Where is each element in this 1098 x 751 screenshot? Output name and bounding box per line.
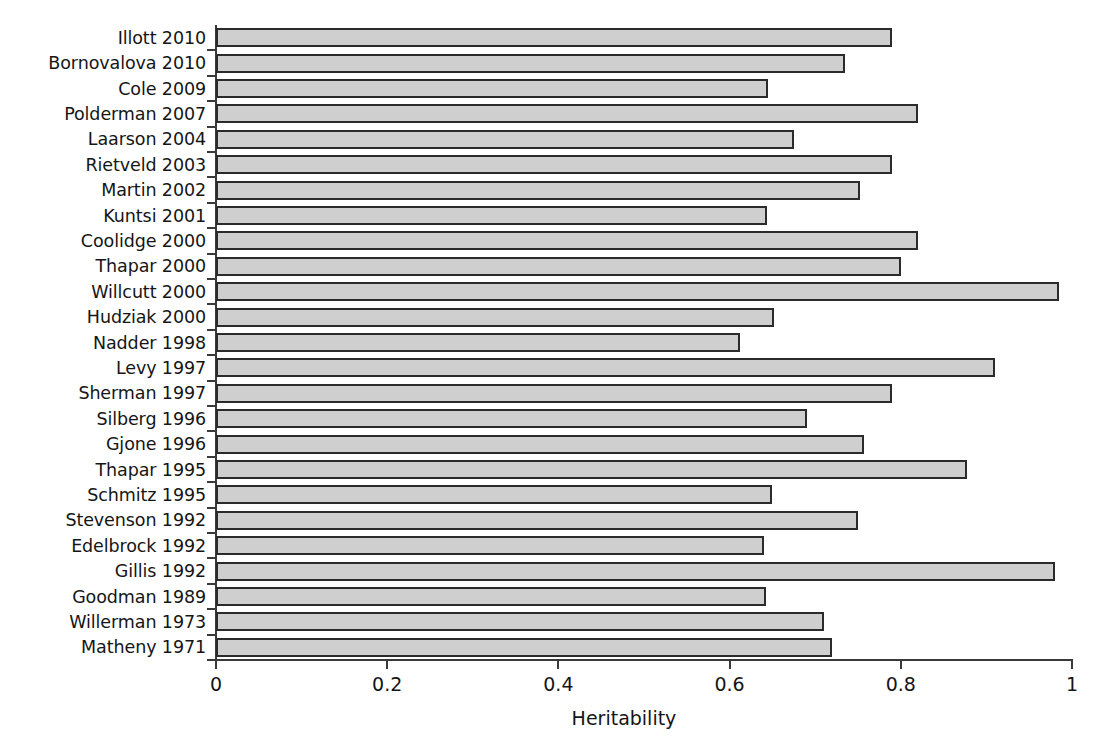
bar-row [216, 330, 1072, 355]
x-axis-tick [900, 659, 902, 669]
bar [216, 638, 832, 657]
y-axis-tick [207, 49, 216, 51]
y-axis-tick [207, 557, 216, 559]
bar [216, 511, 858, 530]
y-axis-tick [207, 354, 216, 356]
bar [216, 54, 845, 73]
y-axis-tick-label: Illott 2010 [118, 29, 206, 48]
x-axis-tick [557, 659, 559, 669]
y-axis-tick [207, 227, 216, 229]
y-axis-tick-label: Nadder 1998 [93, 334, 206, 353]
x-axis-tick-label: 0.8 [886, 673, 916, 695]
bar-row [216, 457, 1072, 482]
y-axis-tick [207, 126, 216, 128]
bar-row [216, 609, 1072, 634]
bar-row [216, 508, 1072, 533]
bar [216, 308, 774, 327]
bar-row [216, 304, 1072, 329]
y-axis-tick [207, 456, 216, 458]
y-axis-tick [207, 75, 216, 77]
y-axis-tick-label: Matheny 1971 [81, 638, 206, 657]
y-axis-tick-label: Gjone 1996 [106, 435, 206, 454]
x-axis-tick [215, 659, 217, 669]
x-axis-title: Heritability [0, 707, 1098, 729]
bar [216, 155, 892, 174]
bar [216, 358, 995, 377]
bar-row [216, 431, 1072, 456]
y-axis-tick [207, 278, 216, 280]
y-axis-tick-label: Silberg 1996 [96, 410, 206, 429]
bar [216, 181, 860, 200]
x-axis-tick-label: 0 [210, 673, 222, 695]
y-axis-tick [207, 507, 216, 509]
bar-row [216, 482, 1072, 507]
y-axis-tick [207, 303, 216, 305]
y-axis-tick-label: Thapar 2000 [95, 257, 206, 276]
y-axis-tick [207, 380, 216, 382]
y-axis-tick-label: Sherman 1997 [78, 384, 206, 403]
y-axis-tick-label: Schmitz 1995 [87, 486, 206, 505]
y-axis-tick-label: Thapar 1995 [95, 461, 206, 480]
bar [216, 612, 824, 631]
y-axis-tick-label: Levy 1997 [116, 359, 206, 378]
bar-row [216, 177, 1072, 202]
bar [216, 409, 807, 428]
bar-row [216, 635, 1072, 660]
bar-row [216, 203, 1072, 228]
x-axis-tick-label: 0.6 [714, 673, 744, 695]
y-axis-tick [207, 253, 216, 255]
bar [216, 231, 918, 250]
bar-row [216, 152, 1072, 177]
bar-row [216, 584, 1072, 609]
bar [216, 587, 766, 606]
y-axis-tick [207, 100, 216, 102]
bar-row [216, 254, 1072, 279]
bar-row [216, 25, 1072, 50]
bar [216, 28, 892, 47]
y-axis-tick-label: Willerman 1973 [69, 613, 206, 632]
y-axis-tick-label: Hudziak 2000 [87, 308, 206, 327]
y-axis-tick-label: Cole 2009 [118, 80, 206, 99]
bar-row [216, 279, 1072, 304]
x-axis-tick [386, 659, 388, 669]
y-axis-tick-label: Martin 2002 [101, 181, 206, 200]
x-axis-title-label: Heritability [572, 707, 677, 729]
y-axis-tick-label: Coolidge 2000 [81, 232, 206, 251]
bar-row [216, 127, 1072, 152]
y-axis-tick [207, 176, 216, 178]
bar-row [216, 558, 1072, 583]
y-axis-tick-label: Edelbrock 1992 [71, 537, 206, 556]
bar [216, 460, 967, 479]
bar [216, 435, 864, 454]
x-axis-tick-label: 0.2 [372, 673, 402, 695]
y-axis-tick [207, 608, 216, 610]
y-axis-tick [207, 329, 216, 331]
bar [216, 333, 740, 352]
y-axis-tick-label: Laarson 2004 [88, 130, 206, 149]
plot-area [216, 25, 1072, 660]
y-axis-tick-label: Stevenson 1992 [65, 511, 206, 530]
bar [216, 485, 772, 504]
bar [216, 536, 764, 555]
bar-row [216, 228, 1072, 253]
bar-row [216, 50, 1072, 75]
bar [216, 104, 918, 123]
heritability-bar-chart: 00.20.40.60.81 Heritability Illott 2010B… [0, 0, 1098, 751]
bar [216, 257, 901, 276]
bar [216, 562, 1055, 581]
y-axis-tick [207, 481, 216, 483]
x-axis-tick [1071, 659, 1073, 669]
y-axis-tick-label: Rietveld 2003 [85, 156, 206, 175]
x-axis-tick [729, 659, 731, 669]
bar-row [216, 406, 1072, 431]
y-axis-tick-label: Polderman 2007 [64, 105, 206, 124]
y-axis-tick-label: Gillis 1992 [115, 562, 206, 581]
y-axis-tick [207, 151, 216, 153]
y-axis-tick [207, 430, 216, 432]
bar-row [216, 381, 1072, 406]
bar-row [216, 533, 1072, 558]
x-axis-tick-label: 1 [1066, 673, 1078, 695]
bar [216, 130, 794, 149]
x-axis-tick-label: 0.4 [543, 673, 573, 695]
bar-row [216, 101, 1072, 126]
